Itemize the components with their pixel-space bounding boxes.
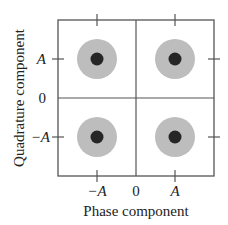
constellation-diagram: A 0 −A −A 0 A Phase component Quadrature… [0,0,228,225]
point-pos-a-pos-a [155,39,195,79]
y-axis-title: Quadrature component [11,28,27,167]
x-tick-label-neg-a: −A [87,183,107,199]
symbol-point [91,131,104,144]
x-axis-title: Phase component [83,203,189,219]
symbol-point [91,53,104,66]
point-neg-a-pos-a [77,39,117,79]
y-tick-label-neg-a: −A [31,129,51,145]
y-tick-label-pos-a: A [36,51,47,67]
x-tick-label-zero: 0 [132,183,140,199]
symbol-point [169,53,182,66]
y-tick-label-zero: 0 [39,90,47,106]
point-pos-a-neg-a [155,117,195,157]
point-neg-a-neg-a [77,117,117,157]
symbol-point [169,131,182,144]
x-tick-label-pos-a: A [169,183,180,199]
